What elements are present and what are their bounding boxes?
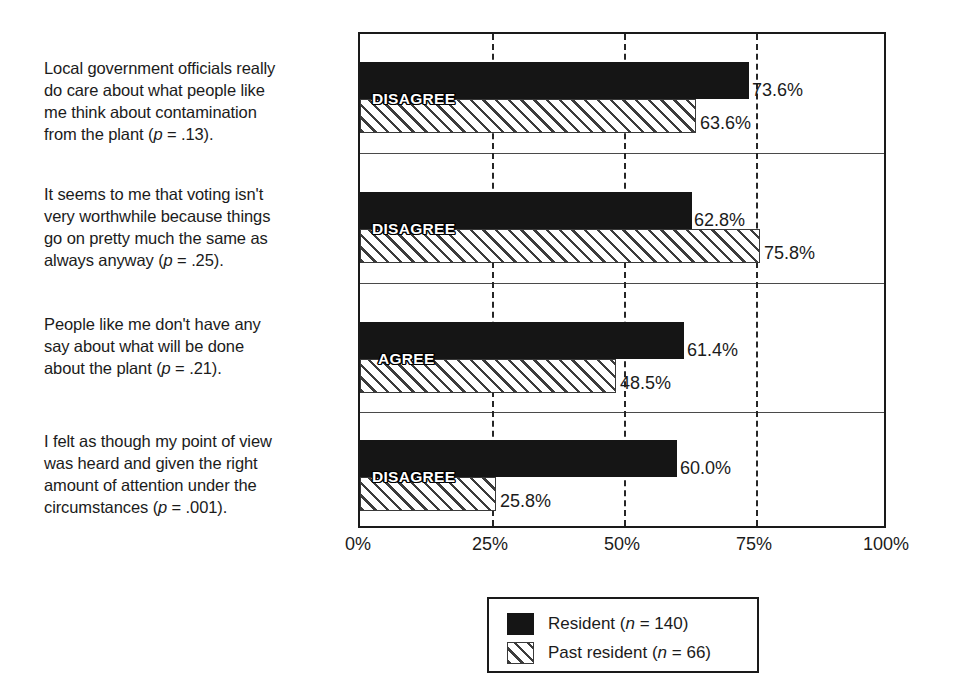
question-2-pvalue-symbol: p [164,251,173,269]
row-separator-1 [360,153,884,154]
question-3-line-4-post: = .21). [171,359,222,377]
chart-figure: Local government officials really do car… [0,0,957,681]
question-4-line-1: I felt as though my point of view [44,432,272,450]
question-label-1: Local government officials really do car… [44,57,344,145]
legend-past-resident-post: = 66) [667,643,711,662]
legend-past-resident-n-symbol: n [658,643,667,662]
question-1-line-3: me think about contamination [44,103,257,121]
xtick-75: 75% [736,534,772,555]
question-2-line-4-post: = .25). [173,251,224,269]
value-label-past-resident-2: 75.8% [764,243,815,264]
question-1-line-1: Local government officials really [44,59,275,77]
xtick-0: 0% [345,534,371,555]
question-4-pvalue-symbol: p [158,498,167,516]
question-1-line-4-post: = .13). [162,125,213,143]
question-1-line-4-pre: from the plant ( [44,125,153,143]
question-3-pvalue-symbol: p [162,359,171,377]
question-3-line-1: People like me don't have any [44,315,261,333]
chart-legend: Resident (n = 140) Past resident (n = 66… [487,597,759,673]
legend-swatch-resident-icon [507,613,534,635]
value-label-resident-3: 61.4% [687,340,738,361]
value-label-resident-1: 73.6% [752,80,803,101]
question-label-3: People like me don't have any say about … [44,313,344,379]
value-label-past-resident-4: 25.8% [500,491,551,512]
legend-swatch-past-resident-icon [507,642,534,664]
question-3-line-4-pre: about the plant ( [44,359,162,377]
question-4-line-2: was heard and given the right [44,454,258,472]
question-3-line-2: say about what will be done [44,337,244,355]
value-label-resident-2: 62.8% [694,210,745,231]
stance-label-2: DISAGREE [372,220,455,238]
row-separator-2 [360,283,884,284]
legend-label-past-resident: Past resident (n = 66) [548,643,711,663]
question-4-line-3: amount of attention under the [44,476,257,494]
question-1-line-2: do care about what people like [44,81,265,99]
stance-label-4: DISAGREE [372,468,455,486]
legend-resident-post: = 140) [635,614,688,633]
value-label-past-resident-1: 63.6% [700,113,751,134]
xtick-25: 25% [472,534,508,555]
gridline-75 [756,34,758,526]
legend-past-resident-pre: Past resident ( [548,643,658,662]
legend-resident-pre: Resident ( [548,614,625,633]
question-2-line-2: very worthwhile because things [44,207,270,225]
question-label-2: It seems to me that voting isn't very wo… [44,183,344,271]
plot-area: DISAGREE DISAGREE AGREE DISAGREE [358,32,886,528]
xtick-100: 100% [863,534,909,555]
question-label-4: I felt as though my point of view was he… [44,430,344,518]
legend-item-past-resident: Past resident (n = 66) [507,639,711,667]
question-2-line-4-pre: always anyway ( [44,251,164,269]
stance-label-1: DISAGREE [372,90,455,108]
value-label-resident-4: 60.0% [680,458,731,479]
question-4-line-4-post: = .001). [167,498,227,516]
row-separator-3 [360,412,884,413]
legend-item-resident: Resident (n = 140) [507,610,688,638]
legend-label-resident: Resident (n = 140) [548,614,688,634]
xtick-50: 50% [604,534,640,555]
question-2-line-1: It seems to me that voting isn't [44,185,263,203]
value-label-past-resident-3: 48.5% [620,373,671,394]
question-2-line-3: go on pretty much the same as [44,229,268,247]
stance-label-3: AGREE [378,350,435,368]
legend-resident-n-symbol: n [625,614,634,633]
question-4-line-4-pre: circumstances ( [44,498,158,516]
